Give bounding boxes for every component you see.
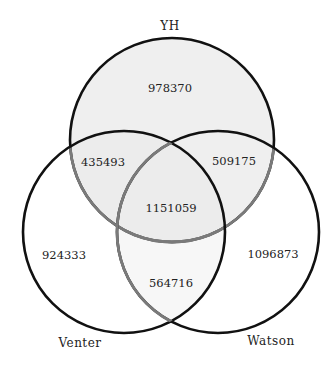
region-all-three: 1151059: [145, 201, 196, 215]
region-yh-only: 978370: [148, 81, 192, 95]
region-venter-watson: 564716: [149, 276, 193, 290]
region-yh-venter: 435493: [81, 155, 125, 169]
region-venter-only: 924333: [42, 248, 86, 262]
set-label-watson: Watson: [247, 334, 294, 348]
set-label-venter: Venter: [57, 336, 101, 350]
venn-diagram: YH Venter Watson 978370 435493 509175 11…: [0, 0, 336, 367]
set-label-yh: YH: [159, 19, 179, 33]
region-yh-watson: 509175: [212, 154, 256, 168]
region-watson-only: 1096873: [247, 247, 298, 261]
